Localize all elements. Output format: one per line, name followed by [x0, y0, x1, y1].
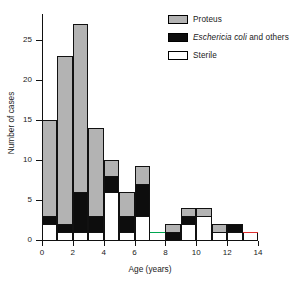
bar-segment [181, 224, 196, 240]
bar-segment [57, 56, 72, 224]
bar-segment [88, 232, 103, 240]
bars-container [0, 0, 305, 283]
bar-segment [104, 176, 119, 192]
bar-segment [57, 224, 72, 232]
green-marker-line [150, 232, 165, 233]
bar-segment [73, 232, 88, 240]
bar-segment [42, 120, 57, 216]
x-axis-title: Age (years) [42, 264, 258, 274]
bar-segment [181, 216, 196, 224]
red-marker-line [243, 232, 258, 233]
bar-segment [212, 232, 227, 240]
bar-segment [104, 160, 119, 176]
bar-segment [227, 224, 242, 232]
bar-segment [135, 166, 150, 184]
bar-segment [104, 192, 119, 240]
bar-segment [42, 216, 57, 224]
bar-segment [165, 224, 180, 232]
histogram-figure: Proteus Eschericia coli and others Steri… [0, 0, 305, 283]
bar-segment [119, 232, 134, 240]
bar-segment [57, 232, 72, 240]
bar-segment [42, 224, 57, 240]
bar-segment [135, 216, 150, 240]
bar-segment [73, 24, 88, 192]
bar-segment [88, 216, 103, 232]
bar-segment [243, 232, 258, 240]
bar-segment [181, 208, 196, 216]
bar-segment [196, 216, 211, 240]
bar-segment [212, 224, 227, 232]
bar-segment [88, 128, 103, 216]
y-axis-title: Number of cases [6, 68, 16, 178]
bar-segment [119, 216, 134, 232]
bar-segment [73, 192, 88, 232]
bar-segment [119, 192, 134, 216]
bar-segment [135, 184, 150, 216]
bar-segment [196, 208, 211, 216]
bar-segment [165, 232, 180, 240]
bar-segment [227, 232, 242, 240]
